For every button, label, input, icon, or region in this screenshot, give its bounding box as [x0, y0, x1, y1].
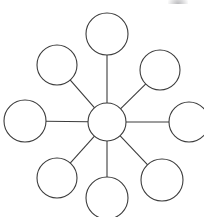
node-n[interactable]	[86, 13, 128, 55]
node-nw[interactable]	[37, 45, 77, 85]
nodes-group	[4, 13, 204, 217]
spoke-w	[46, 121, 89, 122]
spoke-sw	[70, 136, 95, 164]
node-s[interactable]	[86, 177, 128, 217]
node-w[interactable]	[4, 100, 46, 142]
node-sw[interactable]	[37, 158, 77, 198]
node-ne[interactable]	[140, 50, 180, 90]
diagram-canvas	[0, 0, 204, 217]
spoke-nw	[70, 80, 95, 108]
hub-node[interactable]	[88, 103, 126, 141]
node-se[interactable]	[141, 159, 183, 201]
spoke-ne	[120, 84, 146, 109]
radial-node-diagram	[0, 0, 204, 217]
spoke-se	[120, 135, 148, 165]
node-e[interactable]	[169, 102, 204, 142]
